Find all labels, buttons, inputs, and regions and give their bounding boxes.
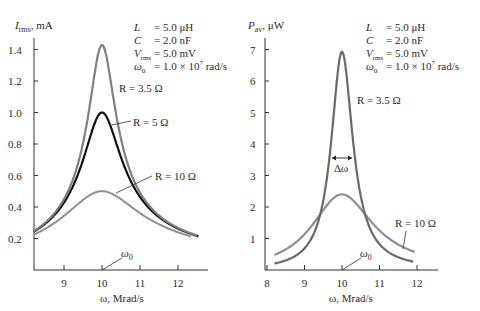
x-tick-label: 12 [173, 277, 184, 289]
y-tick-label: 1.0 [8, 107, 22, 119]
x-tick-label: 12 [412, 277, 423, 289]
svg-text:= 5.0 μH: = 5.0 μH [154, 21, 193, 33]
leader-w0 [102, 258, 122, 270]
power-curve-r10 [275, 194, 415, 255]
y-tick-label: 1.2 [8, 75, 22, 87]
y-tick-label: 7 [250, 44, 256, 56]
svg-text:L: L [133, 21, 140, 33]
y-tick-label: 5 [250, 107, 256, 119]
delta-omega-label: Δω [334, 162, 348, 174]
x-tick-label: 9 [302, 277, 308, 289]
right-x-ticks: 89101112 [264, 265, 422, 289]
y-tick-label: 1 [250, 233, 256, 245]
svg-text:= 2.0 nF: = 2.0 nF [386, 34, 423, 46]
svg-text:C: C [366, 34, 374, 46]
params-left: L = 5.0 μH C = 2.0 nF Vrms = 5.0 mV ω0 =… [133, 21, 227, 75]
svg-text:= 5.0 mV: = 5.0 mV [154, 47, 196, 59]
svg-text:= 1.0 × 107 rad/s: = 1.0 × 107 rad/s [154, 59, 227, 72]
left-x-ticks: 9101112 [61, 265, 183, 289]
right-y-axis-label: Pav, μW [247, 19, 285, 34]
svg-text:= 1.0 × 107 rad/s: = 1.0 × 107 rad/s [386, 59, 459, 72]
left-x-axis-label: ω, Mrad/s [100, 292, 144, 304]
resonance-figure: 0.20.40.60.81.01.21.4 9101112 Irms, mA ω… [0, 0, 480, 311]
y-tick-label: 3 [250, 170, 256, 182]
x-tick-label: 11 [374, 277, 385, 289]
x-tick-label: 8 [264, 277, 270, 289]
x-tick-label: 11 [135, 277, 146, 289]
x-tick-label: 9 [61, 277, 67, 289]
params-right: L = 5.0 μH C = 2.0 nF Vrms = 5.0 mV ω0 =… [365, 21, 459, 75]
svg-text:= 5.0 mV: = 5.0 mV [386, 47, 428, 59]
svg-text:L: L [365, 21, 372, 33]
leader-r5 [112, 121, 131, 125]
power-label-r3-5: R = 3.5 Ω [357, 94, 401, 106]
right-y-ticks: 1234567 [250, 44, 269, 245]
svg-text:= 5.0 μH: = 5.0 μH [386, 21, 425, 33]
y-tick-label: 0.4 [8, 201, 22, 213]
label-r3-5: R = 3.5 Ω [119, 82, 163, 94]
svg-text:C: C [134, 34, 142, 46]
current-chart: 0.20.40.60.81.01.21.4 9101112 Irms, mA ω… [8, 19, 227, 304]
x-tick-label: 10 [97, 277, 109, 289]
label-r10: R = 10 Ω [155, 170, 196, 182]
y-tick-label: 0.2 [8, 233, 22, 245]
label-r5: R = 5 Ω [133, 116, 168, 128]
y-tick-label: 2 [250, 201, 256, 213]
y-tick-label: 0.8 [8, 138, 22, 150]
curve-r10 [34, 191, 191, 236]
x-tick-label: 10 [337, 277, 349, 289]
power-leader-w0 [342, 258, 361, 270]
left-y-axis-label: Irms, mA [14, 19, 53, 34]
power-chart: 1234567 89101112 Pav, μW ω, Mrad/s R = 3… [247, 19, 459, 304]
y-tick-label: 6 [250, 75, 256, 87]
svg-text:= 2.0 nF: = 2.0 nF [154, 34, 191, 46]
y-tick-label: 1.4 [8, 44, 22, 56]
label-w0: ω0 [121, 247, 133, 262]
svg-text:ω0: ω0 [134, 60, 146, 75]
power-leader-r10 [403, 231, 406, 249]
y-tick-label: 0.6 [8, 170, 22, 182]
power-label-w0: ω0 [360, 247, 372, 262]
power-label-r10: R = 10 Ω [395, 217, 436, 229]
svg-text:ω0: ω0 [366, 60, 378, 75]
y-tick-label: 4 [250, 138, 256, 150]
right-x-axis-label: ω, Mrad/s [329, 292, 373, 304]
